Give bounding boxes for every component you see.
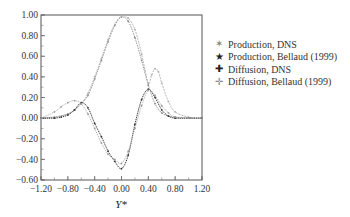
data-point <box>100 142 102 144</box>
data-point <box>134 37 136 39</box>
data-point <box>147 89 149 91</box>
data-point <box>87 107 89 109</box>
data-point <box>154 103 156 105</box>
series-layer <box>40 15 203 169</box>
data-point <box>168 101 170 103</box>
y-tick-label: 1.00 <box>21 10 38 20</box>
data-point <box>174 111 176 113</box>
data-point <box>174 116 176 118</box>
data-point <box>100 57 102 59</box>
data-point <box>127 154 129 156</box>
legend-item-production-bellaud: ★ Production, Bellaud (1999) <box>213 51 337 64</box>
data-point <box>54 111 56 113</box>
data-point <box>67 114 69 116</box>
data-point <box>114 161 116 163</box>
data-point <box>141 59 143 61</box>
legend-item-diffusion-bellaud: ✛ Diffusion, Bellaud (1999) <box>213 76 337 89</box>
data-point <box>60 116 62 118</box>
star-marker-icon: ✶ <box>213 39 225 49</box>
data-point <box>127 17 129 19</box>
x-tick-label: 0.00 <box>113 184 130 194</box>
data-point <box>54 117 56 119</box>
x-tick-label: 0.40 <box>140 184 157 194</box>
y-tick-label: −0.20 <box>16 134 38 144</box>
data-point <box>134 128 136 130</box>
x-tick-label: 1.20 <box>194 184 211 194</box>
data-point <box>161 105 163 107</box>
data-point <box>67 102 69 104</box>
y-tick-label: 0.40 <box>21 72 38 82</box>
data-point <box>154 97 156 99</box>
data-point <box>154 95 156 97</box>
data-point <box>121 15 123 17</box>
data-point <box>151 74 153 76</box>
series-line-production-dns <box>41 17 202 118</box>
data-point <box>100 136 102 138</box>
data-point <box>74 100 76 102</box>
legend-label: Diffusion, DNS <box>228 64 291 75</box>
data-point <box>87 92 89 94</box>
data-point <box>114 158 116 160</box>
data-point <box>161 112 163 114</box>
legend-label: Production, Bellaud (1999) <box>228 51 337 62</box>
legend-label: Diffusion, Bellaud (1999) <box>228 76 331 87</box>
y-tick-label: 0.60 <box>21 51 38 61</box>
data-point <box>141 105 143 107</box>
plot-frame <box>41 15 202 180</box>
data-point <box>107 153 109 155</box>
x-tick-label: 0.80 <box>167 184 184 194</box>
data-point <box>168 115 170 117</box>
data-point <box>161 82 163 84</box>
data-point <box>94 76 96 78</box>
data-point <box>141 99 143 101</box>
data-point <box>40 117 42 119</box>
filled-star-marker-icon: ★ <box>213 52 225 62</box>
data-point <box>121 163 123 165</box>
data-point <box>107 150 109 152</box>
data-point <box>188 117 190 119</box>
data-point <box>127 150 129 152</box>
legend-label: Production, DNS <box>228 39 297 50</box>
data-point <box>201 117 203 119</box>
data-point <box>80 103 82 105</box>
y-tick-label: 0.80 <box>21 31 38 41</box>
data-point <box>147 84 149 86</box>
x-tick-label: −0.80 <box>57 184 79 194</box>
x-tick-label: −0.40 <box>84 184 106 194</box>
data-point <box>134 123 136 125</box>
y-tick-label: −0.40 <box>16 155 38 165</box>
series-line-diffusion-bellaud-1999 <box>41 90 202 164</box>
chart-plot: 1.000.800.600.400.200.00−0.20−0.40−0.60 … <box>0 0 350 217</box>
y-tick-label: 0.00 <box>21 113 38 123</box>
data-point <box>114 23 116 25</box>
data-point <box>60 106 62 108</box>
data-point <box>134 29 136 31</box>
data-point <box>87 113 89 115</box>
data-point <box>168 112 170 114</box>
y-tick-label: 0.20 <box>21 93 38 103</box>
data-point <box>147 82 149 84</box>
data-point <box>94 122 96 124</box>
x-tick-label: −1.20 <box>30 184 52 194</box>
series-line-diffusion-dns <box>41 89 202 169</box>
series-line-production-bellaud-1999 <box>41 16 202 119</box>
data-point <box>127 20 129 22</box>
data-point <box>141 53 143 55</box>
x-axis: −1.20−0.80−0.400.000.400.801.20 <box>30 176 211 194</box>
x-axis-title: Y* <box>115 198 127 210</box>
data-point <box>161 109 163 111</box>
data-point <box>157 71 159 73</box>
legend-item-production-dns: ✶ Production, DNS <box>213 38 337 51</box>
legend-item-diffusion-dns: ✚ Diffusion, DNS <box>213 63 337 76</box>
data-point <box>74 109 76 111</box>
data-point <box>121 168 123 170</box>
legend: ✶ Production, DNS ★ Production, Bellaud … <box>213 38 337 88</box>
plus-marker-icon: ✚ <box>213 64 225 74</box>
data-point <box>94 128 96 130</box>
data-point <box>154 68 156 70</box>
light-plus-marker-icon: ✛ <box>213 77 225 87</box>
data-point <box>107 39 109 41</box>
